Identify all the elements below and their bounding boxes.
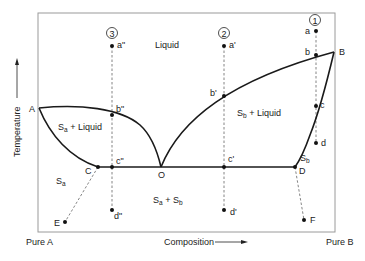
- region-sb-liquid: Sb + Liquid: [237, 108, 281, 119]
- label-C: C: [85, 166, 92, 176]
- point-e: [63, 220, 67, 224]
- point-b2: [110, 113, 114, 117]
- point-a2: [110, 44, 114, 48]
- label-E: E: [54, 218, 60, 228]
- region-labels: Liquid Sa + Liquid Sb + Liquid Sa Sb Sa …: [56, 40, 310, 206]
- label-b1: b': [210, 88, 217, 98]
- solidus-b: [295, 52, 334, 167]
- point-a: [314, 29, 318, 33]
- point-d: [314, 141, 318, 145]
- y-axis: Temperature: [12, 58, 22, 157]
- label-B: B: [339, 47, 345, 57]
- label-d: d: [321, 138, 326, 148]
- y-axis-label: Temperature: [12, 106, 22, 157]
- point-d1: [222, 208, 226, 212]
- region-sa-sb: Sa + Sb: [153, 195, 183, 206]
- region-sa: Sa: [56, 176, 66, 187]
- label-b2: b": [116, 104, 124, 114]
- label-F: F: [310, 215, 316, 225]
- point-b: [314, 53, 318, 57]
- point-f: [302, 218, 306, 222]
- path-3-number: 3: [109, 29, 114, 39]
- label-c1: c': [228, 154, 235, 164]
- x-axis-label: Composition: [164, 237, 214, 247]
- label-c2: c": [116, 156, 124, 166]
- label-a2: a": [117, 40, 125, 50]
- point-d-marker: [293, 165, 297, 169]
- pure-a-label: Pure A: [26, 237, 53, 247]
- phase-boundaries: [39, 52, 334, 167]
- point-b1: [222, 94, 226, 98]
- liquidus-a: [39, 107, 161, 167]
- region-sb: Sb: [300, 153, 310, 164]
- x-axis: Composition Pure A Pure B: [26, 237, 354, 247]
- label-d2: d": [114, 211, 122, 221]
- path-1-number: 1: [312, 16, 317, 26]
- point-c: [314, 104, 318, 108]
- cooling-paths: [65, 31, 316, 222]
- label-d1: d': [230, 207, 237, 217]
- solidus-a: [39, 108, 98, 167]
- path-markers: 3 2 1: [107, 15, 321, 39]
- path-2-number: 2: [221, 29, 226, 39]
- point-c-marker: [96, 165, 100, 169]
- region-liquid: Liquid: [155, 40, 179, 50]
- label-A: A: [29, 104, 35, 114]
- pure-b-label: Pure B: [326, 237, 354, 247]
- point-c1: [222, 165, 226, 169]
- point-a1: [222, 44, 226, 48]
- label-O: O: [158, 170, 165, 180]
- x-axis-arrowhead-icon: [241, 240, 248, 244]
- label-D: D: [299, 166, 306, 176]
- solvus-a-line: [65, 167, 98, 222]
- region-sa-liquid: Sa + Liquid: [58, 122, 102, 133]
- label-a: a: [305, 26, 310, 36]
- point-c2: [110, 165, 114, 169]
- phase-diagram: Temperature Composition Pure A Pure B: [0, 0, 365, 261]
- y-axis-arrowhead-icon: [15, 58, 19, 65]
- label-a1: a': [229, 40, 236, 50]
- label-c: c: [320, 100, 325, 110]
- label-b: b: [305, 47, 310, 57]
